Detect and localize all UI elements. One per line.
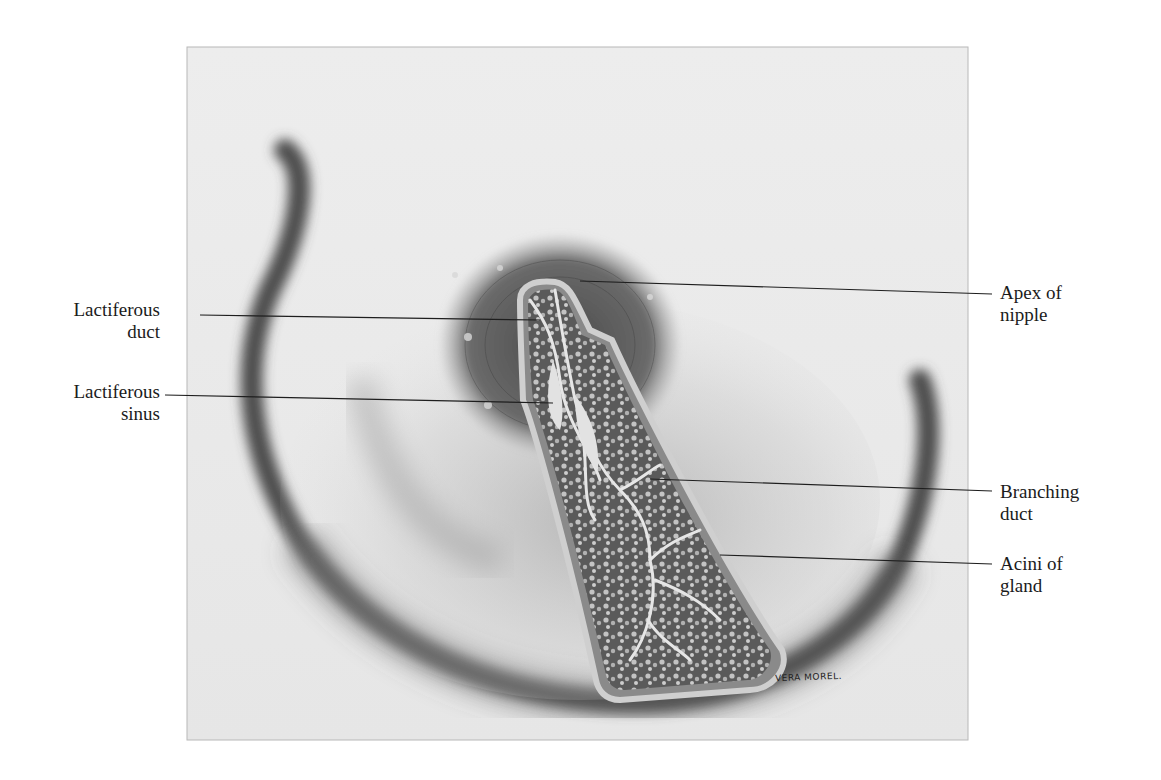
label-line-2: nipple [1000, 304, 1150, 326]
label-lactiferous-sinus: Lactiferous sinus [30, 381, 160, 425]
label-apex-of-nipple: Apex of nipple [1000, 282, 1150, 326]
label-acini-of-gland: Acini of gland [1000, 553, 1150, 597]
label-line-1: Lactiferous [30, 299, 160, 321]
anatomical-illustration: Lactiferous duct Lactiferous sinus Apex … [0, 0, 1161, 780]
illustration-canvas [0, 0, 1161, 780]
label-branching-duct: Branching duct [1000, 481, 1150, 525]
label-line-1: Lactiferous [30, 381, 160, 403]
label-line-2: duct [30, 321, 160, 343]
label-line-1: Apex of [1000, 282, 1150, 304]
label-line-1: Acini of [1000, 553, 1150, 575]
label-line-2: duct [1000, 503, 1150, 525]
label-line-2: sinus [30, 403, 160, 425]
label-lactiferous-duct: Lactiferous duct [30, 299, 160, 343]
label-line-1: Branching [1000, 481, 1150, 503]
label-line-2: gland [1000, 575, 1150, 597]
